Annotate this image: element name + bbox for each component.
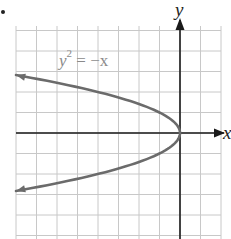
y-axis-label: y: [175, 0, 183, 21]
equation-rest: = −x: [72, 51, 108, 70]
x-axis-label: x: [223, 122, 231, 144]
parabola-figure: y x y2 = −x: [0, 0, 231, 239]
equation-exponent: 2: [67, 47, 73, 59]
equation-base: y: [59, 51, 67, 70]
equation-label: y2 = −x: [59, 49, 108, 71]
coordinate-plot: [0, 0, 231, 239]
